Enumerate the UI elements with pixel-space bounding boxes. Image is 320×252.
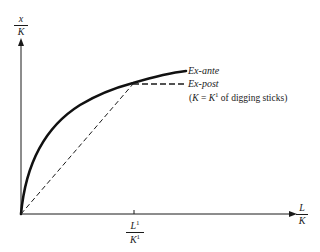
x-label-den: K [296,216,308,226]
ex-ante-curve [21,71,186,214]
ex-post-annotation: (K = K1 of digging sticks) [189,92,287,104]
y-label-num: x [14,14,28,24]
x-tick-label: L1 K1 [126,220,144,246]
diagram-canvas [0,0,320,252]
tick-num: L1 [126,220,144,231]
tick-den: K1 [126,234,144,245]
x-axis-label: L K [296,203,308,226]
y-axis-arrow-icon [18,38,24,46]
y-label-den: K [14,27,28,37]
ex-ante-label: Ex-ante [188,66,219,76]
tick-bar [126,232,144,233]
x-label-num: L [296,203,308,213]
ex-post-label: Ex-post [188,79,219,89]
y-axis-label: x K [14,14,28,37]
